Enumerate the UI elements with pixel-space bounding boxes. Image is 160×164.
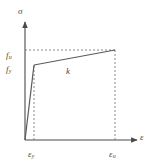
stress-strain-figure: σ ε fu fy εy εu k (0, 0, 160, 164)
elastic-branch (25, 65, 34, 140)
eu-tick-label: εu (109, 144, 116, 160)
ey-tick-label: εy (28, 144, 35, 160)
ey-subscript: y (32, 153, 35, 159)
hardening-branch (34, 50, 115, 65)
stress-axis-label: σ (18, 7, 22, 16)
eu-base: ε (109, 149, 113, 159)
strain-axis-label: ε (140, 133, 144, 142)
slope-k-annotation: k (66, 67, 70, 76)
ey-base: ε (28, 149, 32, 159)
plot-canvas (0, 0, 160, 164)
fy-subscript: y (9, 68, 12, 74)
eu-subscript: u (113, 153, 116, 159)
fy-tick-label: fy (6, 59, 11, 75)
